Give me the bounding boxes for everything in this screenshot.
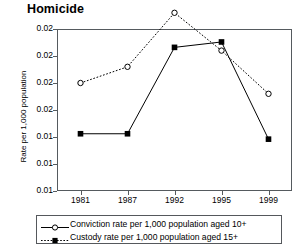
data-point-filled-square xyxy=(78,131,84,137)
y-axis-tick-label: 0.02 xyxy=(21,105,53,114)
legend-label-custody: Custody rate per 1,000 population aged 1… xyxy=(70,232,238,243)
y-axis-tick-label: 0.02 xyxy=(21,51,53,60)
series-line xyxy=(81,42,269,139)
x-axis-tick-mark xyxy=(269,191,270,195)
x-axis-tick-label: 1995 xyxy=(200,195,244,205)
legend-swatch-custody xyxy=(40,232,70,243)
data-point-open-circle xyxy=(125,64,130,69)
x-axis-tick-mark xyxy=(175,191,176,195)
y-axis-tick-label: 0.02 xyxy=(21,24,53,33)
x-axis-tick-mark xyxy=(128,191,129,195)
data-point-filled-square xyxy=(219,39,225,45)
x-axis-tick-mark xyxy=(81,191,82,195)
homicide-line-chart: Homicide Rate per 1,000 population 0.020… xyxy=(0,0,304,251)
data-point-filled-square xyxy=(172,45,178,51)
x-axis-tick-label: 1987 xyxy=(106,195,150,205)
data-point-open-circle xyxy=(172,10,177,15)
legend-swatch-conviction xyxy=(40,219,70,230)
x-axis-tick-mark xyxy=(222,191,223,195)
y-axis-tick-label: 0.01 xyxy=(21,159,53,168)
y-axis-tick-label: 0.01 xyxy=(21,132,53,141)
y-axis-tick-mark xyxy=(53,191,57,192)
data-point-open-circle xyxy=(78,80,83,85)
x-axis-tick-label: 1999 xyxy=(247,195,291,205)
chart-legend: Conviction rate per 1,000 population age… xyxy=(36,215,282,244)
legend-item-custody: Custody rate per 1,000 population aged 1… xyxy=(40,231,281,243)
x-axis-tick-label: 1981 xyxy=(59,195,103,205)
data-point-open-circle xyxy=(219,48,224,53)
legend-item-conviction: Conviction rate per 1,000 population age… xyxy=(40,218,281,230)
legend-label-conviction: Conviction rate per 1,000 population age… xyxy=(70,219,247,230)
chart-title: Homicide xyxy=(27,2,84,16)
data-series-layer xyxy=(57,29,292,191)
data-point-filled-square xyxy=(266,136,272,142)
y-axis-tick-label: 0.02 xyxy=(21,78,53,87)
data-point-filled-square xyxy=(125,131,131,137)
y-axis-tick-label: 0.01 xyxy=(21,186,53,195)
x-axis-tick-label: 1992 xyxy=(153,195,197,205)
data-point-open-circle xyxy=(266,91,271,96)
